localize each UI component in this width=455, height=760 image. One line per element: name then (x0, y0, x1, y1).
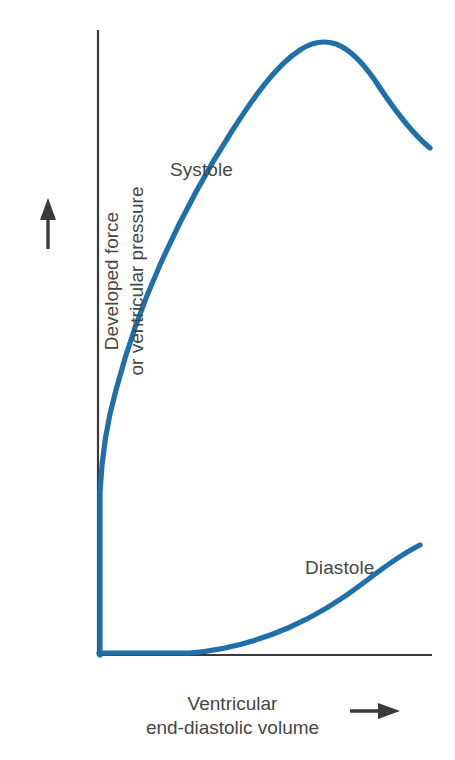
systole-curve-label: Systole (170, 158, 233, 181)
x-axis-label: Ventricular end-diastolic volume (120, 692, 345, 740)
y-axis-label: Developed force or ventricular pressure (99, 156, 151, 406)
x-axis-label-line-2: end-diastolic volume (120, 716, 345, 740)
y-axis-label-line-1: Developed force (99, 156, 124, 406)
arrow-right-icon (350, 703, 400, 719)
arrow-up-icon (40, 198, 56, 249)
y-axis-label-line-2: or ventricular pressure (124, 156, 149, 406)
chart-plot-area (0, 0, 455, 760)
frank-starling-figure: Systole Diastole Developed force or vent… (0, 0, 455, 760)
diastole-curve-label: Diastole (305, 556, 374, 579)
x-axis-label-line-1: Ventricular (120, 692, 345, 716)
